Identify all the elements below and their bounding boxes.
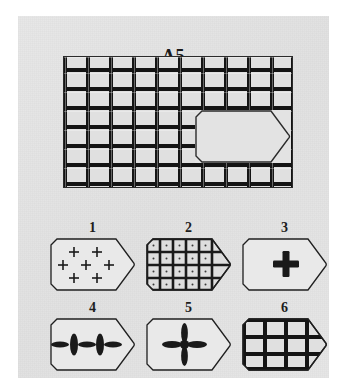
option-3-shape[interactable] — [242, 238, 328, 291]
answer-options: 1 — [38, 220, 343, 392]
option-1[interactable]: 1 — [46, 220, 139, 298]
option-6-number: 6 — [238, 300, 331, 316]
option-5[interactable]: 5 — [142, 300, 235, 378]
option-4-number: 4 — [46, 300, 139, 316]
puzzle-page: A5 1 — [0, 0, 347, 392]
missing-piece-cutout[interactable] — [195, 110, 291, 163]
option-5-number: 5 — [142, 300, 235, 316]
option-2[interactable]: 2 — [142, 220, 235, 298]
option-1-number: 1 — [46, 220, 139, 236]
matrix-frame — [63, 56, 293, 188]
option-6-shape[interactable] — [242, 318, 328, 371]
option-3-number: 3 — [238, 220, 331, 236]
option-6[interactable]: 6 — [238, 300, 331, 378]
main-matrix — [63, 56, 293, 188]
puzzle-panel: A5 1 — [18, 16, 329, 378]
option-3[interactable]: 3 — [238, 220, 331, 298]
option-2-shape[interactable] — [146, 238, 232, 291]
option-5-shape[interactable] — [146, 318, 232, 371]
option-4-shape[interactable] — [50, 318, 136, 371]
option-4[interactable]: 4 — [46, 300, 139, 378]
option-1-shape[interactable] — [50, 238, 136, 291]
option-2-number: 2 — [142, 220, 235, 236]
